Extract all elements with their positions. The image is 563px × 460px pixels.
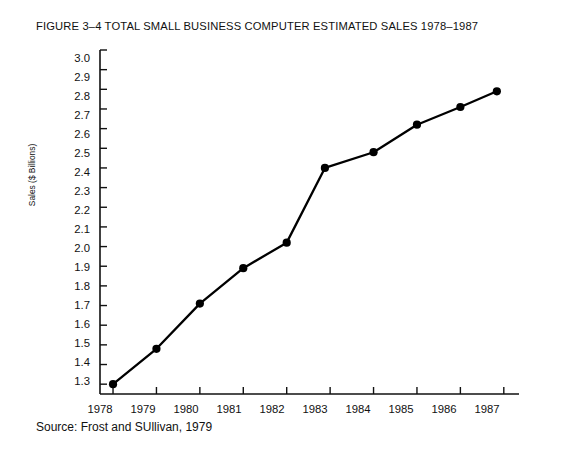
y-tick-label: 2.9 <box>56 72 90 83</box>
y-axis-ticks <box>100 50 107 384</box>
y-tick-label: 3.0 <box>56 53 90 64</box>
x-tick-label: 1984 <box>335 404 381 415</box>
y-tick-label: 2.2 <box>56 205 90 216</box>
y-tick-label: 2.8 <box>56 91 90 102</box>
figure-container: FIGURE 3–4 TOTAL SMALL BUSINESS COMPUTER… <box>0 0 563 460</box>
data-point: 1980: 1.71 <box>196 299 204 307</box>
data-point: 1984: 2.48 <box>369 148 377 156</box>
x-tick-label: 1982 <box>249 404 295 415</box>
source-note: Source: Frost and SUllivan, 1979 <box>36 420 212 434</box>
data-line <box>113 91 497 384</box>
x-tick-label: 1985 <box>378 404 424 415</box>
y-axis-title: Sales ($ Billions) <box>27 110 37 240</box>
y-tick-label: 2.4 <box>56 167 90 178</box>
y-tick-label: 1.3 <box>56 376 90 387</box>
y-tick-label: 2.3 <box>56 186 90 197</box>
y-tick-label: 1.5 <box>56 338 90 349</box>
x-tick-label: 1979 <box>120 404 166 415</box>
x-axis-ticks <box>113 387 504 394</box>
y-tick-label: 2.5 <box>56 148 90 159</box>
data-point: 1979: 1.48 <box>152 345 160 353</box>
x-tick-label: 1983 <box>292 404 338 415</box>
data-point: 1987: 2.79 <box>493 87 501 95</box>
x-tick-label: 1981 <box>206 404 252 415</box>
x-tick-label: 1980 <box>163 404 209 415</box>
data-point: 1978: 1.3 <box>109 380 117 388</box>
x-tick-label: 1987 <box>464 404 510 415</box>
y-tick-label: 1.7 <box>56 300 90 311</box>
data-point: 1983: 2.4 <box>321 164 329 172</box>
y-tick-label: 2.6 <box>56 129 90 140</box>
data-point: 1982: 2.02 <box>283 239 291 247</box>
y-tick-label: 1.4 <box>56 357 90 368</box>
y-tick-label: 2.0 <box>56 243 90 254</box>
y-tick-label: 2.7 <box>56 110 90 121</box>
x-tick-label: 1978 <box>77 404 123 415</box>
y-tick-label: 1.8 <box>56 281 90 292</box>
data-point: 1981: 1.89 <box>239 264 247 272</box>
y-tick-label: 1.9 <box>56 262 90 273</box>
y-tick-label: 2.1 <box>56 224 90 235</box>
data-point-markers: 1978: 1.31979: 1.481980: 1.711981: 1.891… <box>109 87 501 388</box>
data-point: 1985: 2.62 <box>413 121 421 129</box>
x-tick-label: 1986 <box>421 404 467 415</box>
data-point: 1986: 2.71 <box>456 103 464 111</box>
plot-area: Sales ($ Billions) 3.0 2.9 2.8 2.7 2.6 2… <box>0 0 563 460</box>
y-tick-label: 1.6 <box>56 319 90 330</box>
